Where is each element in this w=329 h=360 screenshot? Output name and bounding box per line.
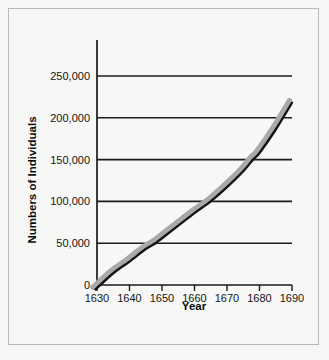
x-tick-label: 1680: [247, 292, 271, 304]
x-tick-label: 1630: [85, 292, 109, 304]
data-series: [93, 101, 292, 290]
y-tick-label: 250,000: [50, 70, 90, 82]
gridlines: [97, 76, 292, 243]
y-tick-label: 100,000: [50, 195, 90, 207]
y-tick-label: 0: [84, 279, 90, 291]
x-tick-marks: [97, 285, 292, 291]
x-tick-label: 1670: [215, 292, 239, 304]
y-tick-labels: 050,000100,000150,000200,000250,000: [50, 70, 90, 291]
x-tick-label: 1650: [150, 292, 174, 304]
line-chart: 050,000100,000150,000200,000250,000 1630…: [0, 0, 329, 360]
y-tick-label: 50,000: [56, 237, 90, 249]
x-tick-label: 1690: [280, 292, 304, 304]
y-tick-label: 200,000: [50, 112, 90, 124]
y-tick-label: 150,000: [50, 154, 90, 166]
chart-figure: 050,000100,000150,000200,000250,000 1630…: [0, 0, 329, 360]
x-tick-label: 1640: [117, 292, 141, 304]
y-axis-title: Numbers of Individuals: [26, 116, 38, 243]
x-axis-title: Year: [182, 300, 207, 312]
series-shadow-0: [93, 101, 290, 288]
